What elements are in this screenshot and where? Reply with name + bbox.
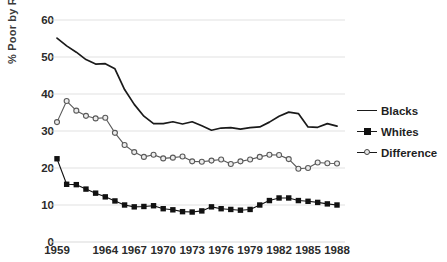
- data-point-marker: [189, 209, 194, 214]
- data-point-marker: [325, 161, 330, 166]
- data-point-marker: [247, 207, 252, 212]
- data-point-marker: [325, 201, 330, 206]
- series-blacks: [57, 38, 337, 130]
- data-point-marker: [296, 166, 301, 171]
- series-line: [57, 101, 337, 169]
- legend-item-difference: Difference: [357, 142, 445, 163]
- data-point-marker: [286, 157, 291, 162]
- x-axis-tick-label: 1979: [237, 244, 263, 256]
- data-point-marker: [257, 154, 262, 159]
- data-point-marker: [315, 200, 320, 205]
- data-point-marker: [132, 204, 137, 209]
- x-axis-tick-label: 1988: [324, 244, 350, 256]
- data-point-marker: [93, 190, 98, 195]
- data-point-marker: [122, 143, 127, 148]
- x-axis-tick-label: 1959: [44, 244, 70, 256]
- series-difference: [55, 99, 340, 172]
- data-point-marker: [335, 161, 340, 166]
- legend-label-blacks: Blacks: [381, 105, 418, 117]
- data-point-marker: [334, 202, 339, 207]
- data-point-marker: [74, 182, 79, 187]
- legend-circle-marker-icon: [357, 146, 377, 160]
- x-axis-tick-label: 1985: [295, 244, 321, 256]
- data-point-marker: [315, 160, 320, 165]
- data-point-marker: [151, 152, 156, 157]
- data-point-marker: [54, 156, 59, 161]
- data-point-marker: [228, 161, 233, 166]
- data-point-marker: [257, 202, 262, 207]
- data-point-marker: [161, 206, 166, 211]
- series-line: [57, 159, 337, 212]
- data-point-marker: [306, 166, 311, 171]
- data-point-marker: [170, 207, 175, 212]
- data-point-marker: [132, 150, 137, 155]
- data-point-marker: [276, 195, 281, 200]
- data-point-marker: [180, 209, 185, 214]
- data-point-marker: [248, 157, 253, 162]
- legend-label-whites: Whites: [381, 126, 419, 138]
- legend-line-icon: [357, 104, 377, 118]
- data-point-marker: [267, 152, 272, 157]
- data-point-marker: [170, 155, 175, 160]
- data-point-marker: [74, 108, 79, 113]
- data-point-marker: [218, 206, 223, 211]
- data-point-marker: [83, 113, 88, 118]
- data-point-marker: [93, 116, 98, 121]
- data-point-marker: [103, 194, 108, 199]
- data-point-marker: [286, 195, 291, 200]
- data-point-marker: [122, 202, 127, 207]
- series-whites: [54, 156, 339, 215]
- x-axis-tick-label: 1976: [208, 244, 234, 256]
- data-point-marker: [277, 153, 282, 158]
- data-point-marker: [141, 154, 146, 159]
- legend-square-marker-icon: [357, 125, 377, 139]
- gridlines: [49, 20, 345, 242]
- data-point-marker: [64, 182, 69, 187]
- data-point-marker: [305, 199, 310, 204]
- data-point-marker: [199, 159, 204, 164]
- x-axis-tick-label: 1973: [179, 244, 205, 256]
- x-axis-tick-label: 1970: [150, 244, 176, 256]
- legend-item-whites: Whites: [357, 121, 445, 142]
- legend-label-difference: Difference: [381, 147, 437, 159]
- data-point-marker: [161, 156, 166, 161]
- series-line: [57, 38, 337, 130]
- x-axis-tick-label: 1967: [121, 244, 147, 256]
- x-axis-tick-label: 1964: [92, 244, 118, 256]
- data-point-marker: [141, 204, 146, 209]
- data-point-marker: [151, 203, 156, 208]
- data-point-marker: [238, 159, 243, 164]
- data-point-marker: [209, 204, 214, 209]
- data-point-marker: [190, 159, 195, 164]
- data-point-marker: [83, 186, 88, 191]
- data-point-marker: [112, 198, 117, 203]
- poverty-by-race-chart: % Poor by Race 0102030405060 19591964196…: [0, 0, 447, 262]
- data-point-marker: [55, 120, 60, 125]
- data-point-marker: [228, 207, 233, 212]
- data-point-marker: [180, 154, 185, 159]
- data-point-marker: [112, 130, 117, 135]
- data-point-marker: [199, 208, 204, 213]
- data-point-marker: [238, 207, 243, 212]
- legend-item-blacks: Blacks: [357, 100, 445, 121]
- data-point-marker: [267, 198, 272, 203]
- data-point-marker: [209, 158, 214, 163]
- x-axis-tick-label: 1982: [266, 244, 292, 256]
- data-point-marker: [296, 198, 301, 203]
- data-point-marker: [103, 115, 108, 120]
- chart-legend: Blacks Whites Difference: [357, 100, 445, 163]
- data-point-marker: [219, 157, 224, 162]
- data-point-marker: [64, 99, 69, 104]
